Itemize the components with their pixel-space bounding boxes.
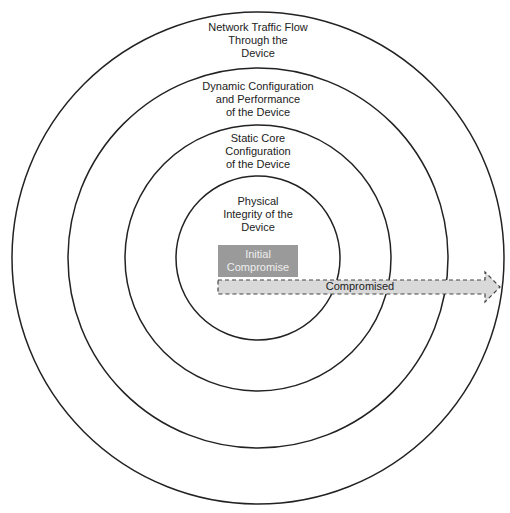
label-line: Network Traffic Flow [178,21,338,34]
box-line: Compromise [227,261,289,274]
initial-compromise-box: Initial Compromise [218,245,298,277]
ring-label-static: Static Core Configuration of the Device [198,132,318,171]
box-line: Initial [227,248,289,261]
label-line: Device [198,221,318,234]
label-line: Dynamic Configuration [178,80,338,93]
label-line: of the Device [178,106,338,119]
arrow-label: Compromised [320,280,400,292]
label-line: Static Core [198,132,318,145]
label-line: Through the [178,34,338,47]
ring-label-dynamic: Dynamic Configuration and Performance of… [178,80,338,119]
label-line: Integrity of the [198,208,318,221]
label-line: Configuration [198,145,318,158]
ring-label-physical: Physical Integrity of the Device [198,195,318,234]
label-line: Physical [198,195,318,208]
ring-label-network: Network Traffic Flow Through the Device [178,21,338,60]
label-line: of the Device [198,158,318,171]
label-line: and Performance [178,93,338,106]
label-line: Device [178,47,338,60]
